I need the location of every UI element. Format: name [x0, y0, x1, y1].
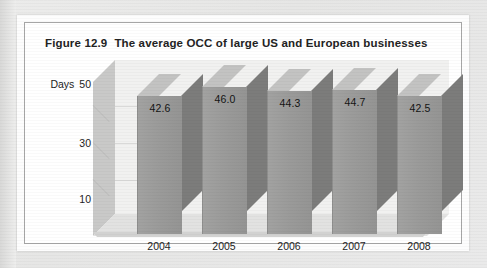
bar-2008-value-label: 42.5	[398, 102, 442, 114]
y-tick-10: 10	[31, 193, 91, 205]
x-tick-2006: 2006	[259, 240, 319, 252]
figure-number: Figure 12.9	[45, 37, 107, 49]
bar-2005-front-face: 46.0	[202, 87, 247, 234]
bar-2006[interactable]: 44.3	[267, 91, 311, 234]
x-tick-2005: 2005	[194, 240, 254, 252]
y-tick-50-label: 50	[79, 78, 91, 90]
bar-2004-value-label: 42.6	[138, 102, 182, 114]
bar-2005[interactable]: 46.0	[202, 87, 246, 234]
bar-2007[interactable]: 44.7	[332, 90, 376, 234]
bar-2004[interactable]: 42.6	[137, 96, 181, 234]
bar-2006-front-face: 44.3	[267, 91, 312, 234]
y-tick-30-label: 30	[79, 137, 91, 149]
bar-2007-value-label: 44.7	[333, 96, 377, 108]
bar-2008-front-face: 42.5	[397, 96, 442, 234]
bar-2004-side-face	[181, 74, 203, 212]
x-tick-2007: 2007	[324, 240, 384, 252]
y-axis: Days50 30 10	[25, 56, 91, 245]
x-tick-2008: 2008	[389, 240, 449, 252]
bar-2005-side-face	[246, 65, 268, 212]
y-tick-50: Days50	[31, 78, 91, 90]
figure-title: Figure 12.9The average OCC of large US a…	[45, 37, 428, 49]
bar-2008[interactable]: 42.5	[397, 96, 441, 234]
x-tick-2004: 2004	[129, 240, 189, 252]
figure-card: Figure 12.9The average OCC of large US a…	[17, 15, 469, 251]
bar-2007-front-face: 44.7	[332, 90, 377, 234]
figure-border-frame: Figure 12.9The average OCC of large US a…	[24, 22, 462, 244]
bar-2006-value-label: 44.3	[268, 97, 312, 109]
plot-left-wall	[93, 60, 115, 236]
y-tick-30: 30	[31, 137, 91, 149]
figure-title-text: The average OCC of large US and European…	[114, 37, 427, 49]
page-gutter-shadow	[0, 0, 16, 268]
bar-chart: Days50 30 10 42.6 46.0	[25, 56, 463, 245]
bar-2007-side-face	[376, 68, 398, 212]
bar-2004-front-face: 42.6	[137, 96, 182, 234]
bar-2006-side-face	[311, 69, 333, 212]
scanned-page-background: Figure 12.9The average OCC of large US a…	[0, 0, 487, 268]
bar-2008-side-face	[441, 74, 463, 212]
y-axis-unit-label: Days	[50, 78, 74, 90]
y-tick-10-label: 10	[79, 193, 91, 205]
bar-2005-value-label: 46.0	[203, 93, 247, 105]
